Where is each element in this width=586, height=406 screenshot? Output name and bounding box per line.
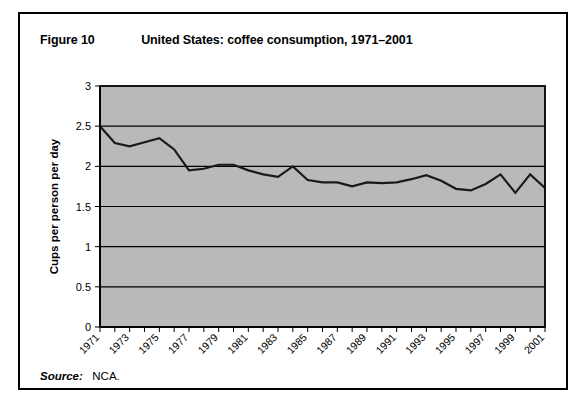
figure-title: United States: coffee consumption, 1971–… bbox=[141, 33, 412, 47]
y-tick-label: 1 bbox=[85, 241, 91, 253]
y-axis-title-text: Cups per person per day bbox=[48, 138, 60, 274]
figure-frame: Figure 10 United States: coffee consumpt… bbox=[18, 12, 568, 390]
x-tick-label: 1991 bbox=[373, 331, 398, 356]
x-tick-label: 1979 bbox=[195, 331, 220, 356]
x-axis-ticks: 1971197319751977197919811983198519871989… bbox=[76, 327, 546, 356]
x-tick-label: 1971 bbox=[76, 331, 101, 356]
source-value: NCA. bbox=[92, 370, 119, 382]
coffee-consumption-line-chart: 00.511.522.53 19711973197519771979198119… bbox=[42, 56, 548, 356]
x-tick-label: 1989 bbox=[343, 331, 368, 356]
x-tick-label: 1977 bbox=[165, 331, 190, 356]
y-tick-label: 0.5 bbox=[76, 281, 91, 293]
x-tick-label: 1997 bbox=[462, 331, 487, 356]
x-tick-label: 1973 bbox=[106, 331, 131, 356]
y-tick-label: 0 bbox=[85, 321, 91, 333]
figure-number: Figure 10 bbox=[40, 33, 95, 47]
x-tick-label: 1985 bbox=[284, 331, 309, 356]
y-tick-label: 3 bbox=[85, 80, 91, 92]
x-tick-label: 1995 bbox=[432, 331, 457, 356]
source-label: Source: bbox=[40, 370, 83, 382]
figure-header: Figure 10 United States: coffee consumpt… bbox=[40, 30, 540, 50]
y-axis-title: Cups per person per day bbox=[48, 138, 60, 274]
y-axis-ticks: 00.511.522.53 bbox=[76, 80, 100, 333]
x-tick-label: 1987 bbox=[314, 331, 339, 356]
chart-svg: 00.511.522.53 19711973197519771979198119… bbox=[42, 56, 548, 356]
y-tick-label: 2 bbox=[85, 160, 91, 172]
y-tick-label: 1.5 bbox=[76, 201, 91, 213]
x-tick-label: 2001 bbox=[521, 331, 546, 356]
x-tick-label: 1981 bbox=[225, 331, 250, 356]
x-tick-label: 1975 bbox=[136, 331, 161, 356]
x-tick-label: 1983 bbox=[254, 331, 279, 356]
y-tick-label: 2.5 bbox=[76, 120, 91, 132]
source-note: Source: NCA. bbox=[40, 366, 120, 384]
x-tick-label: 1999 bbox=[492, 331, 517, 356]
x-tick-label: 1993 bbox=[403, 331, 428, 356]
